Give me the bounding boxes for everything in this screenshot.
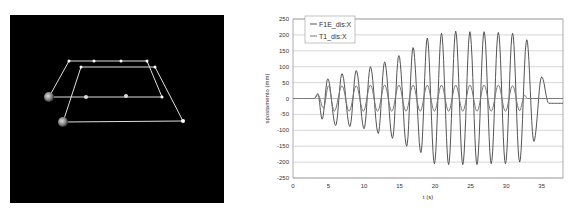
x-tick-label: 30 — [503, 183, 510, 189]
y-axis-label: spostamento (mm) — [264, 73, 270, 123]
y-tick-label: 100 — [279, 64, 290, 70]
frame-node — [120, 60, 123, 63]
y-tick-label: -100 — [277, 127, 290, 133]
x-tick-label: 35 — [538, 183, 545, 189]
x-tick-label: 15 — [396, 183, 403, 189]
x-tick-label: 10 — [361, 183, 368, 189]
y-tick-label: 250 — [279, 16, 290, 22]
y-tick-label: -150 — [277, 143, 290, 149]
frame-node — [124, 94, 128, 98]
y-tick-label: 150 — [279, 48, 290, 54]
series-line-f1e — [314, 31, 563, 165]
y-tick-label: -250 — [277, 175, 290, 181]
structure-3d-view — [10, 15, 224, 203]
legend: F1E_dis:X T1_dis:X — [305, 16, 355, 43]
x-tick-label: 25 — [467, 183, 474, 189]
frame-node — [68, 60, 71, 63]
frame-node — [80, 66, 83, 69]
series-layer — [293, 31, 563, 165]
x-axis-label: t (s) — [423, 194, 433, 200]
frame-beam — [63, 121, 183, 122]
x-tick-label: 0 — [291, 183, 295, 189]
frame-beam — [155, 67, 183, 121]
frame-beam — [63, 67, 81, 122]
legend-label-t1: T1_dis:X — [319, 33, 347, 41]
mass-sphere — [58, 117, 68, 127]
frame-node — [181, 119, 185, 123]
frame-node — [84, 95, 88, 99]
y-tick-label: 200 — [279, 32, 290, 38]
x-tick-label: 5 — [327, 183, 331, 189]
frame-node — [161, 96, 164, 99]
displacement-chart: 250200150100500-50-100-150-200-250 05101… — [250, 0, 569, 218]
y-ticks: 250200150100500-50-100-150-200-250 — [277, 16, 290, 181]
frame-beam — [49, 61, 69, 97]
structure-wireframe — [10, 15, 224, 203]
y-tick-label: -50 — [280, 111, 289, 117]
y-tick-label: 50 — [282, 80, 289, 86]
frame-node — [93, 60, 96, 63]
x-ticks: 05101520253035 — [291, 183, 545, 189]
x-tick-label: 20 — [432, 183, 439, 189]
legend-label-f1e: F1E_dis:X — [319, 21, 352, 29]
frame-node — [146, 60, 149, 63]
frame-node — [154, 66, 157, 69]
y-tick-label: 0 — [286, 96, 290, 102]
y-tick-label: -200 — [277, 159, 290, 165]
mass-sphere — [44, 92, 54, 102]
